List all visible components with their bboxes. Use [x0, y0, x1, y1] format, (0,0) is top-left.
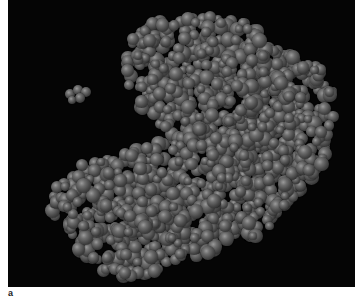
atom-sphere — [141, 142, 153, 154]
atom-sphere — [241, 176, 250, 185]
atom-sphere — [173, 52, 185, 64]
atom-sphere — [284, 113, 294, 123]
molecular-model-panel — [8, 0, 355, 287]
atom-sphere — [242, 216, 256, 230]
atom-sphere — [259, 67, 268, 76]
atom-sphere — [137, 82, 146, 91]
atom-sphere — [201, 246, 215, 260]
atom-sphere — [196, 140, 207, 151]
atom-sphere — [224, 116, 234, 126]
atom-sphere — [169, 20, 179, 30]
atom-sphere — [76, 178, 91, 193]
atom-sphere — [239, 150, 249, 160]
atom-sphere — [201, 27, 211, 37]
atom-sphere — [304, 115, 312, 123]
atom-sphere — [166, 187, 179, 200]
atom-sphere — [314, 157, 329, 172]
atom-sphere — [282, 128, 295, 141]
atom-sphere — [189, 204, 204, 219]
atom-sphere — [205, 108, 219, 122]
atom-sphere — [207, 194, 220, 207]
atom-sphere — [175, 249, 184, 258]
atom-sphere — [190, 233, 199, 242]
atom-sphere — [297, 61, 309, 73]
atom-sphere — [169, 67, 183, 81]
atom-sphere — [195, 113, 204, 122]
atom-sphere — [254, 198, 263, 207]
atom-sphere — [303, 164, 315, 176]
atom-sphere — [193, 123, 205, 135]
atom-sphere — [201, 60, 211, 70]
atom-sphere — [256, 207, 265, 216]
atom-sphere — [231, 80, 243, 92]
atom-sphere — [281, 192, 289, 200]
atom-sphere — [138, 220, 152, 234]
atom-sphere — [100, 199, 112, 211]
atom-sphere — [185, 158, 197, 170]
atom-sphere — [201, 230, 214, 243]
atom-sphere — [235, 25, 243, 33]
atom-sphere — [91, 227, 100, 236]
atom-sphere — [175, 157, 184, 166]
atom-sphere — [73, 197, 83, 207]
atom-sphere — [169, 203, 178, 212]
atom-sphere — [92, 238, 104, 250]
atom-sphere — [259, 75, 272, 88]
atom-sphere — [279, 200, 289, 210]
atom-sphere — [243, 24, 252, 33]
atom-sphere — [262, 160, 273, 171]
atom-sphere — [258, 122, 268, 132]
atom-sphere — [225, 96, 235, 106]
atom-sphere — [105, 212, 115, 222]
atom-sphere — [271, 58, 283, 70]
atom-sphere — [148, 264, 161, 277]
atom-sphere — [135, 95, 147, 107]
panel-label: a — [8, 288, 13, 298]
atom-sphere — [160, 121, 171, 132]
atom-sphere — [174, 214, 187, 227]
atom-sphere — [61, 182, 69, 190]
atom-sphere — [119, 267, 130, 278]
atom-sphere — [298, 145, 312, 159]
atom-sphere — [143, 34, 156, 47]
atom-sphere — [114, 174, 127, 187]
atom-sphere — [181, 100, 195, 114]
atom-sphere — [158, 210, 172, 224]
atom-sphere — [235, 186, 246, 197]
atom-sphere — [145, 183, 157, 195]
atom-sphere — [278, 177, 293, 192]
atom-sphere — [181, 117, 190, 126]
atom-sphere — [124, 228, 132, 236]
atom-sphere — [216, 18, 226, 28]
atom-sphere — [184, 177, 192, 185]
atom-sphere — [183, 78, 194, 89]
atom-sphere — [265, 222, 274, 231]
atom-sphere — [280, 155, 290, 165]
atom-sphere — [144, 250, 158, 264]
atom-sphere — [134, 162, 147, 175]
atom-sphere — [295, 92, 306, 103]
atom-sphere — [168, 145, 178, 155]
atom-sphere — [159, 64, 168, 73]
atom-sphere — [103, 167, 115, 179]
atom-sphere — [318, 102, 331, 115]
atom-sphere — [157, 167, 167, 177]
atom-sphere — [161, 36, 172, 47]
atom-sphere — [168, 234, 176, 242]
atom-sphere — [191, 18, 200, 27]
atom-sphere — [246, 54, 259, 67]
atom-sphere — [276, 126, 284, 134]
atom-sphere — [269, 138, 279, 148]
atom-sphere — [230, 143, 239, 152]
atom-sphere — [124, 80, 134, 90]
atom-sphere — [222, 66, 233, 77]
atom-sphere — [263, 174, 274, 185]
atom-sphere — [284, 91, 295, 102]
ligand-atom-sphere — [75, 93, 85, 103]
atom-sphere — [134, 51, 143, 60]
atom-sphere — [78, 221, 88, 231]
atom-sphere — [165, 83, 176, 94]
atom-sphere — [315, 126, 326, 137]
atom-sphere — [120, 249, 131, 260]
atom-sphere — [278, 145, 289, 156]
